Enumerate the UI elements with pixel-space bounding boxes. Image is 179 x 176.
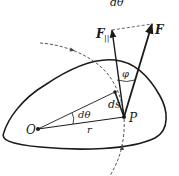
point-p-label: P	[128, 111, 138, 125]
work-diagram: dθ F || F φ ds P O dθ r	[0, 0, 179, 176]
force-parallel-subscript: ||	[104, 34, 109, 43]
point-upper	[113, 90, 117, 94]
point-o	[36, 127, 40, 131]
force-label: F	[154, 23, 165, 37]
top-dtheta-label: dθ	[110, 0, 124, 9]
origin-label: O	[26, 123, 36, 137]
trajectory-arrow-icon	[70, 48, 76, 53]
force-component-dashed	[112, 24, 152, 30]
dtheta-label: dθ	[78, 109, 90, 120]
dtheta-arc	[72, 113, 74, 124]
ds-label: ds	[108, 98, 121, 111]
radius-label: r	[87, 124, 93, 135]
phi-label: φ	[122, 68, 129, 79]
